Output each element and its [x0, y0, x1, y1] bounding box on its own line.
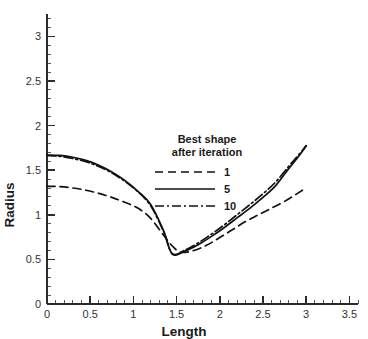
- legend-title-line-1: Best shape: [178, 133, 237, 145]
- y-axis-tick-label: 0: [35, 298, 41, 310]
- legend-title-line-2: after iteration: [172, 146, 243, 158]
- y-axis-title: Radius: [2, 182, 17, 227]
- x-axis-tick-label: 1: [130, 308, 136, 320]
- x-axis-tick-label: 3.5: [342, 308, 357, 320]
- x-axis-tick-label: 0.5: [83, 308, 98, 320]
- legend-label-10: 10: [224, 200, 236, 212]
- chart-background: [0, 0, 368, 339]
- legend-label-1: 1: [224, 166, 230, 178]
- x-axis-tick-label: 1.5: [169, 308, 184, 320]
- y-axis-tick-label: 2: [35, 120, 41, 132]
- line-chart: 00.511.522.533.5 00.511.522.53 Length Ra…: [0, 0, 368, 339]
- y-axis-tick-label: 1: [35, 209, 41, 221]
- x-axis-title: Length: [162, 324, 207, 339]
- chart-figure: 00.511.522.533.5 00.511.522.53 Length Ra…: [0, 0, 368, 339]
- x-axis-tick-label: 2.5: [255, 308, 270, 320]
- y-axis-tick-label: 2.5: [26, 75, 41, 87]
- y-axis-tick-label: 1.5: [26, 164, 41, 176]
- legend-label-5: 5: [224, 183, 230, 195]
- x-axis-tick-label: 2: [217, 308, 223, 320]
- y-axis-tick-label: 3: [35, 30, 41, 42]
- y-axis-tick-label: 0.5: [26, 253, 41, 265]
- x-axis-tick-label: 0: [44, 308, 50, 320]
- x-axis-tick-label: 3: [303, 308, 309, 320]
